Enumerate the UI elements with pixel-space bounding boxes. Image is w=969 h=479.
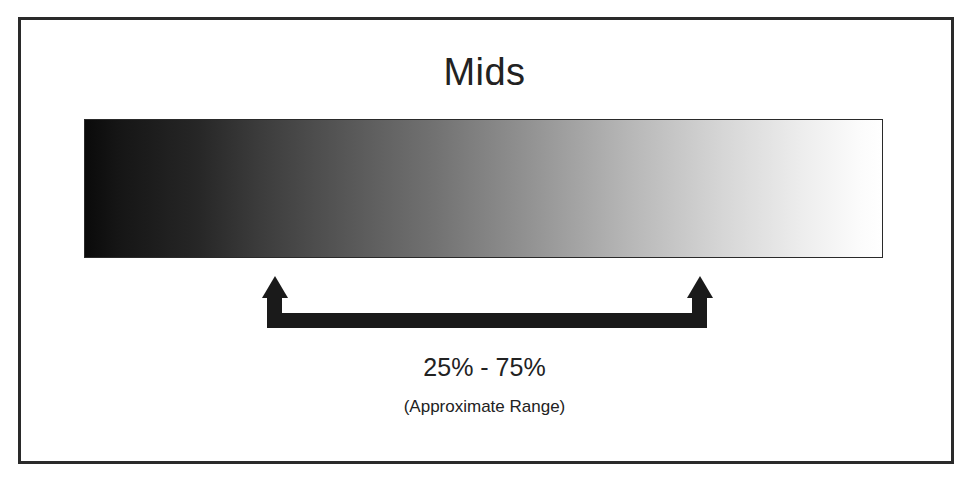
- diagram-title: Mids: [0, 49, 969, 95]
- range-percent-label: 25% - 75%: [0, 352, 969, 382]
- range-approximate-label: (Approximate Range): [0, 396, 969, 418]
- tonal-gradient-bar: [84, 119, 883, 258]
